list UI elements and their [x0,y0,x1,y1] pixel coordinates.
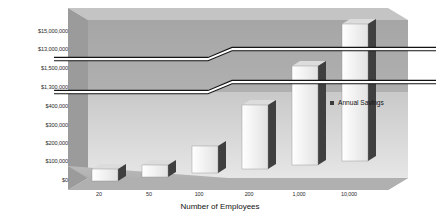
legend-swatch-icon [330,101,334,105]
bar-50 [142,160,176,177]
x-axis-title: Number of Employees [0,202,440,211]
bar-1000 [292,61,326,165]
x-tick-label: 20 [79,191,119,197]
x-tick-label: 200 [229,191,269,197]
y-tick-label: $1,500,000 [41,65,68,71]
x-tick-label: 10,000 [329,191,369,197]
x-tick-label: 100 [179,191,219,197]
chart-container: $15,000,000 $13,000,000 $1,500,000 $1,30… [0,0,440,223]
bar-100 [192,141,226,173]
y-tick-label: $15,000,000 [38,28,68,34]
y-tick-label: $13,000,000 [38,46,68,52]
y-tick-label: $1,300,000 [41,84,68,90]
x-tick-label: 50 [129,191,169,197]
y-tick-label: $0 [62,177,68,183]
y-tick-label: $100,000 [45,158,68,164]
bar-10000 [342,19,376,161]
chart-legend: Annual Savings [330,99,384,106]
bar-200 [242,100,276,169]
y-axis-labels: $15,000,000 $13,000,000 $1,500,000 $1,30… [4,0,68,223]
y-tick-label: $300,000 [45,122,68,128]
y-tick-label: $200,000 [45,140,68,146]
legend-label: Annual Savings [338,99,384,106]
bar-20 [92,164,126,181]
y-tick-label: $400,000 [45,103,68,109]
x-tick-label: 1,000 [279,191,319,197]
